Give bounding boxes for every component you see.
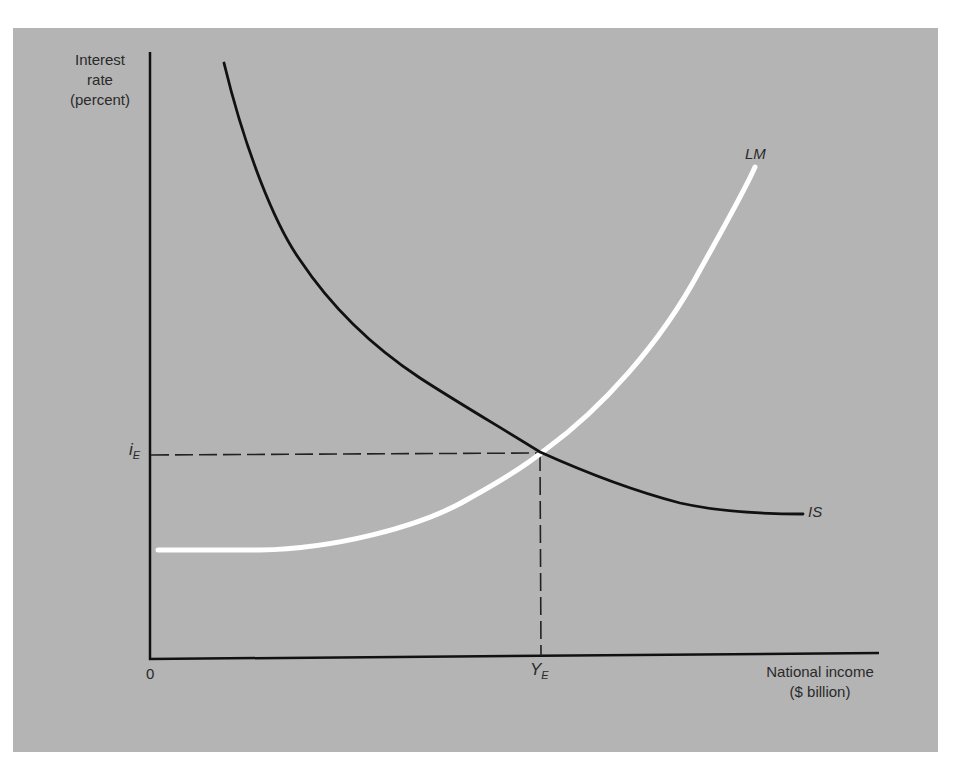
ie-guide-line <box>151 453 540 455</box>
x-axis-label: National income ($ billion) <box>740 662 900 702</box>
is-curve <box>224 63 803 514</box>
is-lm-chart <box>0 0 958 765</box>
y-axis-label-line: rate <box>48 70 152 90</box>
ie-subscript: E <box>133 449 140 461</box>
y-axis-label-line: Interest <box>48 50 152 70</box>
origin-label: 0 <box>146 665 154 682</box>
x-axis <box>149 653 879 659</box>
equilibrium-rate-label: iE <box>129 440 140 461</box>
equilibrium-income-label: YE <box>530 660 549 681</box>
lm-curve <box>158 167 755 550</box>
ye-main: Y <box>530 660 541 679</box>
is-curve-label: IS <box>808 503 822 520</box>
x-axis-label-line: ($ billion) <box>740 682 900 702</box>
y-axis-label: Interest rate (percent) <box>48 50 152 110</box>
y-axis-label-line: (percent) <box>48 90 152 110</box>
ye-guide-line <box>540 453 541 656</box>
lm-curve-label: LM <box>745 145 766 162</box>
x-axis-label-line: National income <box>740 662 900 682</box>
ye-subscript: E <box>541 669 548 681</box>
